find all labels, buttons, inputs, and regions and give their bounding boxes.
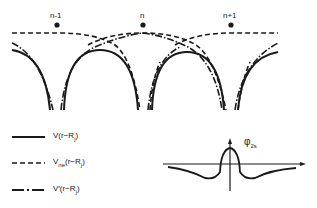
potential-diagram bbox=[0, 0, 317, 208]
phi-2s-label: φ2s bbox=[244, 137, 257, 149]
vne-curve bbox=[12, 33, 278, 110]
site-label-n: n bbox=[140, 12, 144, 20]
phi-2s-curve bbox=[168, 148, 296, 178]
legend-label-v-prime: V′(r−Rj) bbox=[53, 185, 80, 195]
legend-label-vne: Vne(r−Rj) bbox=[53, 158, 85, 168]
v-curve bbox=[12, 50, 278, 110]
site-dot-n bbox=[140, 22, 145, 27]
site-label-n-minus-1: n-1 bbox=[50, 12, 62, 20]
site-dot-n-plus-1 bbox=[228, 22, 233, 27]
v-prime-curve bbox=[12, 33, 278, 110]
site-label-n-plus-1: n+1 bbox=[223, 12, 237, 20]
inset-axes bbox=[163, 138, 306, 191]
site-dot-n-minus-1 bbox=[54, 22, 59, 27]
legend-label-v: V(r−Rj) bbox=[53, 132, 78, 142]
